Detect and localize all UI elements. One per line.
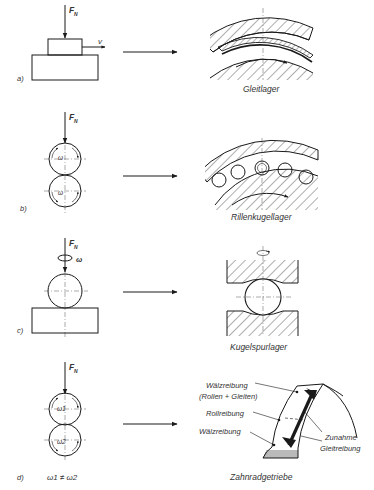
ball-bearing-drawing: [199, 138, 318, 215]
panel-c: F N ω c) Kugelspurlager: [17, 238, 298, 352]
omega-2: ω2: [57, 438, 66, 445]
omega-bottom: ω: [58, 189, 63, 196]
caption-kugelspurlager: Kugelspurlager: [230, 342, 288, 352]
omega-1: ω1: [57, 405, 66, 412]
label-walzreibung-bottom: Wälzreibung: [199, 427, 242, 436]
omega-condition: ω1 ≠ ω2: [47, 473, 78, 482]
caption-rillenkugellager: Rillenkugellager: [231, 212, 293, 222]
force-arrow-b: F N: [65, 112, 78, 143]
velocity-label: v: [98, 37, 103, 46]
panel-label-d: d): [17, 473, 24, 482]
panel-label-c: c): [17, 326, 24, 335]
force-subscript: N: [74, 244, 78, 250]
force-subscript: N: [74, 11, 78, 17]
omega-top: ω: [58, 154, 63, 161]
panel-b: F N ω ω b) Rillenkugellager: [20, 112, 318, 222]
label-zunahme: Zunahme: [324, 433, 357, 442]
plain-bearing-drawing: [202, 8, 313, 82]
panel-a: F N v a) Gleitlager: [17, 5, 313, 94]
force-arrow-a: F N: [65, 5, 78, 38]
panel-d: F N ω1 ω2 d) ω1 ≠ ω2: [17, 362, 361, 482]
force-arrow-d: F N: [65, 362, 78, 394]
force-subscript: N: [74, 368, 78, 374]
omega-label: ω: [76, 255, 82, 264]
panel-label-b: b): [20, 204, 27, 213]
sliding-block: [48, 39, 82, 55]
label-gleitreibung: Gleitreibung: [320, 444, 361, 453]
base-hatch: [263, 451, 298, 457]
label-rollen-gleiten: (Rollen + Gleiten): [199, 392, 258, 401]
panel-label-a: a): [17, 74, 24, 83]
caption-zahnradgetriebe: Zahnradgetriebe: [229, 472, 293, 482]
thrust-ball-bearing-drawing: [227, 246, 298, 336]
force-subscript: N: [74, 118, 78, 124]
base-block: [32, 55, 98, 80]
label-rollreibung: Rollreibung: [206, 409, 245, 418]
friction-types-diagram: F N v a) Gleitlager F N: [0, 0, 374, 490]
caption-gleitlager: Gleitlager: [243, 84, 281, 94]
label-walzreibung-top: Wälzreibung: [206, 381, 249, 390]
